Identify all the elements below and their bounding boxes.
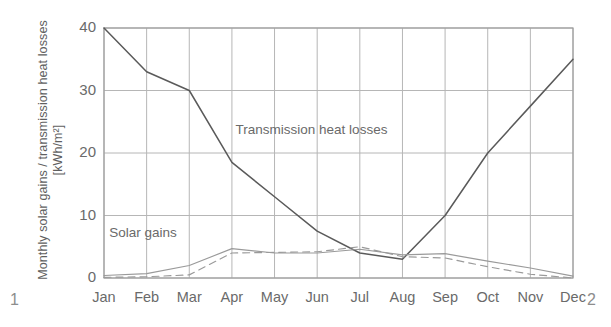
corner-label-left: 1 [10,291,19,309]
chart-figure: Monthly solar gains / transmission heat … [0,0,611,327]
y-axis-tick-label: 20 [56,143,96,160]
y-axis-tick-label: 40 [56,18,96,35]
series-annotation-label: Transmission heat losses [236,122,388,137]
x-axis-tick-label: Dec [543,289,603,305]
y-axis-tick-label: 30 [56,81,96,98]
y-axis-tick-label: 10 [56,206,96,223]
series-annotation-label: Solar gains [109,225,177,240]
y-axis-tick-label: 0 [56,268,96,285]
series-line-1 [104,249,573,277]
